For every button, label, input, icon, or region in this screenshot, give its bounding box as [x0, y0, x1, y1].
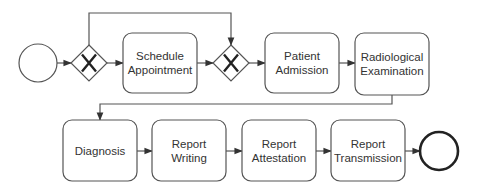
task-label: Report	[262, 138, 297, 150]
sequence-flow-t3-to-t4[interactable]	[100, 95, 392, 120]
task-schedule-appointment[interactable]: ScheduleAppointment	[123, 33, 197, 93]
end-event[interactable]	[420, 132, 458, 170]
task-label: Schedule	[136, 50, 184, 62]
task-label: Attestation	[252, 152, 306, 164]
task-box	[152, 120, 226, 181]
task-box	[355, 33, 429, 95]
task-patient-admission[interactable]: PatientAdmission	[265, 33, 339, 93]
task-box	[242, 120, 316, 181]
task-report-transmission[interactable]: ReportTransmission	[331, 120, 405, 181]
task-label: Diagnosis	[75, 145, 126, 157]
task-label: Radiological	[361, 51, 424, 63]
task-label: Report	[351, 138, 386, 150]
task-label: Appointment	[128, 64, 193, 76]
task-label: Writing	[171, 152, 207, 164]
exclusive-gateway-1[interactable]	[71, 45, 107, 81]
task-box	[123, 33, 197, 93]
exclusive-gateway-2[interactable]	[213, 45, 249, 81]
task-label: Patient	[284, 50, 321, 62]
task-label: Report	[172, 138, 207, 150]
task-label: Transmission	[334, 152, 402, 164]
task-report-writing[interactable]: ReportWriting	[152, 120, 226, 181]
task-box	[331, 120, 405, 181]
task-radiological-examination[interactable]: RadiologicalExamination	[355, 33, 429, 95]
start-event[interactable]	[19, 44, 57, 82]
task-report-attestation[interactable]: ReportAttestation	[242, 120, 316, 181]
flow-nodes: ScheduleAppointmentPatientAdmissionRadio…	[19, 33, 458, 181]
task-label: Examination	[360, 65, 423, 77]
task-diagnosis[interactable]: Diagnosis	[63, 120, 137, 181]
bpmn-diagram: ScheduleAppointmentPatientAdmissionRadio…	[0, 0, 477, 193]
task-label: Admission	[275, 64, 328, 76]
task-box	[265, 33, 339, 93]
